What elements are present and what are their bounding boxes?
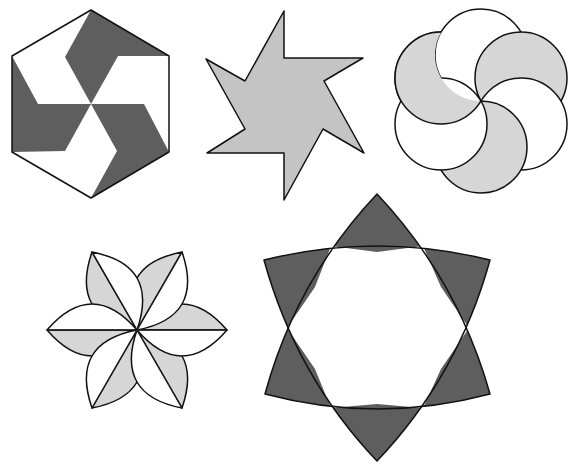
hexagon-pinwheel: [12, 10, 169, 198]
figure-canvas: Rotational symmetry figures: [0, 0, 575, 470]
circle-upper-left-overlay: [395, 32, 487, 124]
star-body: [206, 11, 364, 200]
six-point-pinwheel-star: [206, 11, 364, 200]
six-petal-flower: [47, 252, 227, 408]
petal-axes: [47, 252, 227, 408]
figure-svg: [0, 0, 575, 470]
curved-hexagram: [264, 194, 490, 461]
six-circle-rosette: [395, 9, 567, 193]
